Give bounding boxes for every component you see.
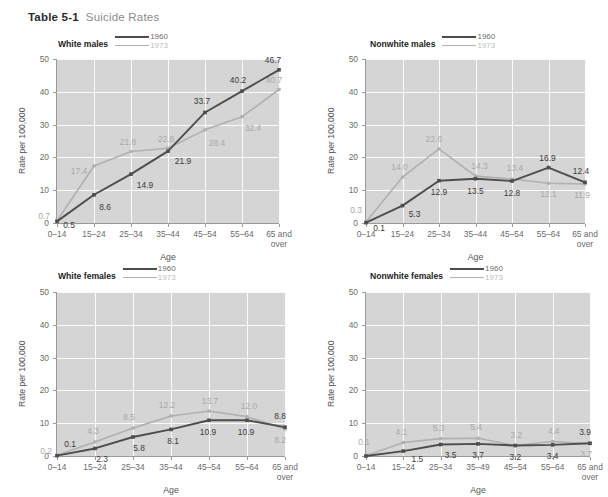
data-label-1960: 40.2 [230, 75, 246, 85]
data-point-marker [364, 454, 368, 458]
data-point-marker [207, 418, 211, 422]
data-point-marker [55, 454, 59, 458]
chart-panel-white-males: White males19601973504030201000–1415–242… [0, 34, 304, 264]
data-label-1973: 14.3 [471, 161, 487, 171]
data-label-1973: 12.0 [241, 401, 257, 411]
data-label-1973: 0.1 [358, 437, 370, 447]
data-label-1973: 12.1 [540, 189, 556, 199]
data-label-1960: 12.8 [504, 188, 520, 198]
data-point-marker [437, 147, 440, 150]
data-point-marker [551, 443, 555, 447]
series-layer [304, 264, 608, 497]
data-point-marker [583, 181, 587, 185]
data-point-marker [131, 427, 134, 430]
data-label-1973: 8.5 [123, 412, 135, 422]
data-point-marker [364, 221, 368, 225]
data-point-marker [166, 149, 170, 153]
data-label-1960: 14.9 [137, 180, 153, 190]
data-label-1960: 8.6 [99, 202, 111, 212]
data-label-1960: 3.2 [510, 452, 522, 462]
data-label-1960: 12.4 [573, 166, 589, 176]
data-label-1973: 13.4 [507, 163, 523, 173]
data-label-1973: 0.7 [38, 211, 50, 221]
data-label-1973: 40.7 [266, 75, 282, 85]
data-label-1960: 8.1 [167, 436, 179, 446]
data-point-marker [437, 179, 441, 183]
chart-panel-nonwhite-males: Nonwhite males19601973504030201000–1415–… [304, 34, 608, 264]
data-label-1960: 33.7 [194, 96, 210, 106]
data-point-marker [277, 88, 280, 91]
data-point-marker [439, 437, 442, 440]
data-point-marker [55, 220, 59, 224]
data-point-marker [129, 150, 132, 153]
data-label-1960: 21.9 [175, 156, 191, 166]
data-label-1973: 4.4 [548, 426, 560, 436]
series-layer [304, 34, 608, 267]
data-point-marker [588, 441, 592, 445]
data-label-1973: 32.4 [245, 123, 261, 133]
data-label-1960: 8.8 [274, 411, 286, 421]
data-point-marker [514, 444, 518, 448]
data-label-1960: 12.9 [431, 187, 447, 197]
data-label-1973: 22.8 [158, 134, 174, 144]
data-point-marker [131, 435, 135, 439]
data-label-1973: 11.9 [574, 190, 590, 200]
series-line-1960 [57, 70, 279, 222]
data-label-1960: 1.5 [412, 454, 424, 464]
data-label-1960: 3.4 [547, 451, 559, 461]
data-point-marker [203, 128, 206, 131]
data-point-marker [129, 172, 133, 176]
data-label-1973: 0.2 [40, 446, 52, 456]
data-point-marker [245, 418, 249, 422]
data-label-1960: 16.9 [539, 153, 555, 163]
data-label-1960: 46.7 [265, 55, 281, 65]
data-label-1973: 12.2 [159, 400, 175, 410]
figure-title: Table 5-1Suicide Rates [28, 11, 159, 23]
data-label-1960: 10.9 [200, 427, 216, 437]
data-point-marker [547, 166, 551, 170]
data-label-1960: 3.9 [579, 427, 591, 437]
data-label-1960: 0.1 [64, 439, 76, 449]
data-label-1960: 0.5 [63, 220, 75, 230]
series-layer [0, 34, 304, 267]
data-label-1973: 8.2 [274, 435, 286, 445]
data-label-1960: 5.8 [133, 443, 145, 453]
data-point-marker [207, 409, 210, 412]
data-point-marker [93, 440, 96, 443]
data-label-1973: 5.3 [433, 423, 445, 433]
data-label-1973: 3.2 [511, 430, 523, 440]
chart-panel-nonwhite-females: Nonwhite females19601973504030201000–141… [304, 264, 608, 497]
data-label-1973: 4.3 [87, 426, 99, 436]
data-label-1973: 3.7 [580, 449, 592, 459]
data-label-1960: 10.9 [238, 427, 254, 437]
data-point-marker [439, 443, 443, 447]
data-label-1973: 4.1 [396, 427, 408, 437]
table-number: Table 5-1 [28, 11, 79, 23]
data-label-1973: 28.4 [209, 138, 225, 148]
data-point-marker [169, 428, 173, 432]
data-point-marker [474, 177, 478, 181]
data-point-marker [551, 440, 554, 443]
data-point-marker [547, 182, 550, 185]
data-point-marker [476, 442, 480, 446]
data-point-marker [245, 415, 248, 418]
data-label-1973: 14.0 [391, 162, 407, 172]
data-point-marker [240, 115, 243, 118]
data-point-marker [203, 111, 207, 115]
data-label-1973: 22.6 [426, 134, 442, 144]
data-point-marker [277, 68, 281, 72]
series-line-1973 [57, 90, 279, 221]
series-layer [0, 264, 304, 497]
data-point-marker [283, 425, 287, 429]
data-label-1960: 3.7 [472, 450, 484, 460]
data-point-marker [510, 179, 514, 183]
data-point-marker [93, 447, 97, 451]
data-point-marker [92, 164, 95, 167]
data-label-1960: 2.3 [96, 454, 108, 464]
data-point-marker [401, 204, 405, 208]
data-label-1960: 0.1 [373, 223, 385, 233]
data-label-1973: 21.8 [120, 137, 136, 147]
data-point-marker [169, 414, 172, 417]
data-point-marker [402, 441, 405, 444]
data-point-marker [476, 437, 479, 440]
